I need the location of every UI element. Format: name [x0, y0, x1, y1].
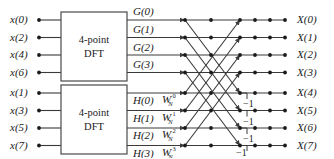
dft-box-bottom-label: 4-point DFT: [61, 106, 127, 134]
g-label-1: G(1): [133, 24, 154, 35]
input-label-4: x(1): [10, 87, 28, 98]
g-label-2: G(2): [133, 42, 154, 53]
fft-flow-graph-figure: x(0) x(2) x(4) x(6) x(1) x(3) x(5) x(7) …: [0, 0, 334, 158]
output-label-4: X(4): [297, 87, 317, 98]
output-label-6: X(6): [297, 122, 317, 133]
dft-box-top-line2: DFT: [61, 47, 127, 61]
output-label-0: X(0): [297, 14, 317, 25]
output-label-3: X(3): [297, 67, 317, 78]
output-label-7: X(7): [297, 140, 317, 151]
input-label-1: x(2): [10, 32, 28, 43]
h-label-1: H(1): [133, 113, 154, 124]
h-label-0: H(0): [133, 95, 154, 106]
minus-one-label-0: −1: [243, 99, 254, 109]
h-label-2: H(2): [133, 130, 154, 141]
twiddle-sup-3: 3: [173, 145, 176, 152]
twiddle-label-0: WN0: [162, 94, 176, 105]
butterfly-diagonal-lines: [185, 20, 240, 146]
dft-output-lines-group: [127, 20, 185, 146]
twiddle-sub-3: N: [168, 153, 172, 158]
twiddle-sub-0: N: [168, 100, 172, 107]
dft-box-top-label: 4-point DFT: [61, 33, 127, 61]
twiddle-sup-0: 0: [173, 92, 176, 99]
g-label-0: G(0): [133, 6, 154, 17]
input-lines-group: [39, 20, 61, 146]
twiddle-label-2: WN2: [162, 129, 176, 140]
twiddle-sub-1: N: [168, 118, 172, 125]
dft-box-top-line1: 4-point: [61, 33, 127, 47]
h-label-3: H(3): [133, 148, 154, 159]
input-label-5: x(3): [10, 105, 28, 116]
input-label-7: x(7): [10, 140, 28, 151]
input-label-6: x(5): [10, 122, 28, 133]
output-label-2: X(2): [297, 49, 317, 60]
dft-box-bottom-line2: DFT: [61, 120, 127, 134]
input-label-3: x(6): [10, 67, 28, 78]
input-node-dots: [37, 18, 41, 147]
input-label-0: x(0): [10, 14, 28, 25]
twiddle-label-1: WN1: [162, 112, 176, 123]
output-label-1: X(1): [297, 32, 317, 43]
twiddle-label-3: WN3: [162, 147, 176, 158]
dft-box-bottom-line1: 4-point: [61, 106, 127, 120]
input-label-2: x(4): [10, 49, 28, 60]
output-label-5: X(5): [297, 105, 317, 116]
minus-one-label-3: −1: [236, 148, 247, 158]
minus-one-label-1: −1: [243, 117, 254, 127]
twiddle-sup-2: 2: [173, 127, 176, 134]
twiddle-sub-2: N: [168, 135, 172, 142]
g-label-3: G(3): [133, 59, 154, 70]
twiddle-sup-1: 1: [173, 110, 176, 117]
minus-one-label-2: −1: [243, 134, 254, 144]
